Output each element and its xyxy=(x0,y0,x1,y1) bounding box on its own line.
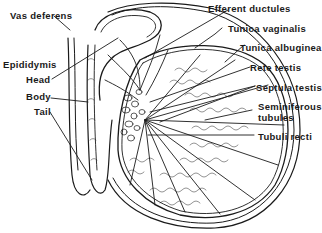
label-tubuli-recti: Tubuli recti xyxy=(258,131,312,142)
label-tunica-vaginalis: Tunica vaginalis xyxy=(228,23,306,34)
label-epididymis: Epididymis xyxy=(3,59,57,70)
label-rete-testis: Rete testis xyxy=(250,62,301,73)
label-tunica-albuginea: Tunica albuginea xyxy=(240,42,322,53)
label-tail: Tail xyxy=(34,106,51,117)
label-septula-testis: Septula testis xyxy=(256,82,322,93)
testis-diagram: Vas deferens Epididymis Head Body Tail E… xyxy=(0,0,322,233)
label-efferent-ductules: Efferent ductules xyxy=(208,3,291,14)
label-seminiferous-tubules-line2: tubules xyxy=(258,112,294,123)
label-seminiferous-tubules-line1: Seminiferous xyxy=(258,101,322,112)
label-head: Head xyxy=(26,74,50,85)
label-vas-deferens: Vas deferens xyxy=(10,10,72,21)
label-body: Body xyxy=(26,91,51,102)
